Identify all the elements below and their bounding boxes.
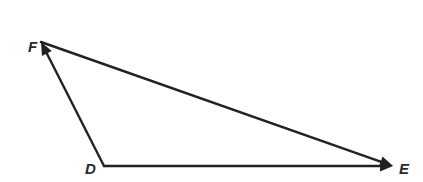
- vertex-label-e: E: [399, 160, 410, 177]
- edge-df: [46, 52, 104, 166]
- arrowhead-icon: [379, 156, 393, 166]
- triangle-diagram: F D E: [0, 0, 423, 182]
- edges-group: [41, 42, 383, 166]
- vertex-label-d: D: [85, 160, 96, 177]
- vertex-label-f: F: [28, 38, 38, 55]
